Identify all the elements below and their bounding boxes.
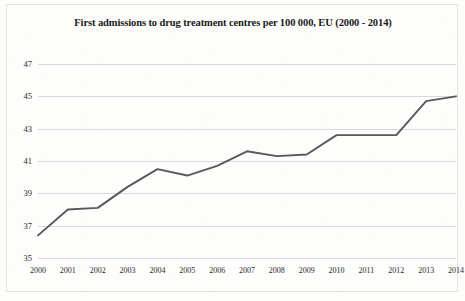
x-tick-label-2014: 2014 (448, 266, 464, 275)
y-tick-label-35: 35 (24, 253, 33, 263)
y-tick-label-45: 45 (24, 91, 33, 101)
x-tick-label-2008: 2008 (269, 266, 285, 275)
chart-title: First admissions to drug treatment centr… (58, 16, 408, 30)
x-tick-label-2011: 2011 (359, 266, 375, 275)
chart-page: First admissions to drug treatment centr… (0, 0, 465, 301)
gridline-35 (38, 258, 456, 259)
x-tick-label-2002: 2002 (90, 266, 106, 275)
y-tick-label-37: 37 (24, 221, 33, 231)
x-tick-label-2004: 2004 (149, 266, 165, 275)
x-tick-label-2005: 2005 (179, 266, 195, 275)
y-tick-label-43: 43 (24, 124, 33, 134)
series-line-chart (38, 64, 456, 258)
x-tick-label-2007: 2007 (239, 266, 255, 275)
x-tick-label-2001: 2001 (60, 266, 76, 275)
x-tick-label-2013: 2013 (418, 266, 434, 275)
x-tick-label-2012: 2012 (388, 266, 404, 275)
x-tick-label-2009: 2009 (299, 266, 315, 275)
x-tick-label-2003: 2003 (120, 266, 136, 275)
x-tick-label-2010: 2010 (329, 266, 345, 275)
series-line-first-admissions (38, 96, 456, 235)
y-tick-label-41: 41 (24, 156, 33, 166)
x-tick-label-2000: 2000 (30, 266, 46, 275)
plot-area: 35373941434547 2000200120022003200420052… (38, 64, 456, 258)
y-tick-label-47: 47 (24, 59, 33, 69)
y-tick-label-39: 39 (24, 188, 33, 198)
x-tick-label-2006: 2006 (209, 266, 225, 275)
